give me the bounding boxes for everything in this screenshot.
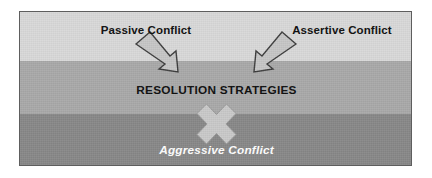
passive-to-resolution-arrow-icon — [136, 32, 178, 72]
assertive-conflict-label: Assertive Conflict — [216, 24, 412, 36]
conflict-resolution-diagram: Passive Conflict Assertive Conflict RESO… — [19, 11, 412, 166]
assertive-to-resolution-arrow-icon — [254, 32, 296, 72]
resolution-strategies-label: RESOLUTION STRATEGIES — [20, 83, 412, 97]
figure-canvas: Passive Conflict Assertive Conflict RESO… — [0, 0, 432, 178]
aggressive-conflict-label: Aggressive Conflict — [20, 143, 412, 157]
x-cross-icon — [197, 104, 236, 144]
